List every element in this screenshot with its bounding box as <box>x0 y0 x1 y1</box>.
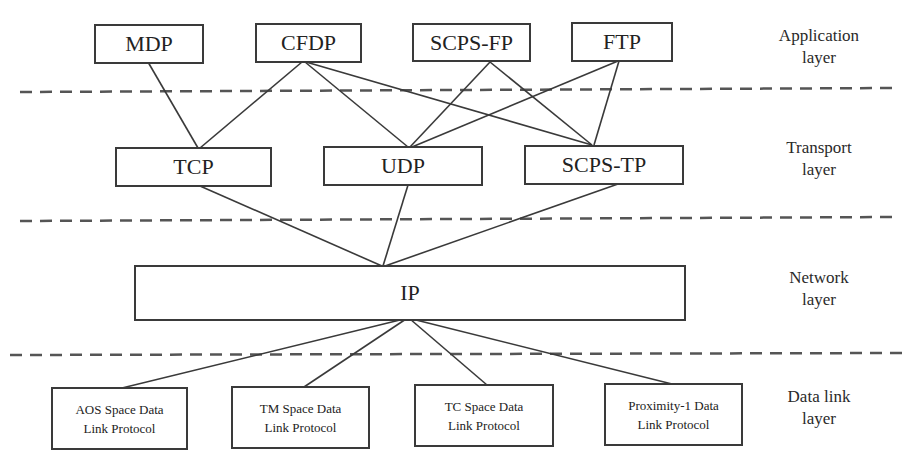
edge-mdp-tcp <box>148 62 198 148</box>
edge-udp-ip <box>383 185 408 266</box>
protocol-stack-diagram: MDP CFDP SCPS-FP FTP TCP UDP SCPS-TP IP … <box>0 0 914 468</box>
edge-scpsfp-scpstp <box>490 62 592 145</box>
node-tc-label: TC Space Data Link Protocol <box>445 397 524 435</box>
edge-scpsfp-udp <box>410 62 490 147</box>
node-aos-label: AOS Space Data Link Protocol <box>75 400 163 438</box>
node-ip-label: IP <box>400 280 420 306</box>
edge-tcp-ip <box>200 186 382 266</box>
node-mdp: MDP <box>94 24 204 64</box>
edge-scpstp-ip <box>385 184 618 266</box>
node-aos: AOS Space Data Link Protocol <box>51 387 188 450</box>
edge-cfdp-scpstp <box>306 62 592 145</box>
edge-ftp-scpstp <box>594 61 619 145</box>
node-mdp-label: MDP <box>125 31 173 57</box>
edge-cfdp-udp <box>305 62 408 147</box>
node-udp: UDP <box>323 146 483 186</box>
node-tm: TM Space Data Link Protocol <box>231 386 370 449</box>
node-proximity-1-label: Proximity-1 Data Link Protocol <box>628 396 719 434</box>
node-tcp-label: TCP <box>173 154 213 180</box>
node-tc: TC Space Data Link Protocol <box>414 384 554 447</box>
node-proximity-1: Proximity-1 Data Link Protocol <box>604 383 743 446</box>
node-cfdp: CFDP <box>255 23 362 63</box>
node-tcp: TCP <box>115 147 272 187</box>
edge-ftp-udp <box>412 61 618 147</box>
node-cfdp-label: CFDP <box>281 30 336 56</box>
node-scps-tp: SCPS-TP <box>524 145 684 185</box>
node-scps-fp: SCPS-FP <box>412 23 531 62</box>
layer-divider-transport-network <box>20 217 898 221</box>
node-ftp-label: FTP <box>603 29 641 55</box>
node-tm-label: TM Space Data Link Protocol <box>260 399 342 437</box>
edge-ip-prox <box>412 319 672 384</box>
layer-divider-network-datalink <box>10 353 905 355</box>
node-ftp: FTP <box>571 22 673 62</box>
node-udp-label: UDP <box>381 153 425 179</box>
edge-cfdp-tcp <box>200 62 302 148</box>
layer-divider-app-transport <box>20 88 898 92</box>
node-scps-tp-label: SCPS-TP <box>562 152 646 178</box>
node-ip: IP <box>134 265 686 321</box>
node-scps-fp-label: SCPS-FP <box>430 30 513 56</box>
